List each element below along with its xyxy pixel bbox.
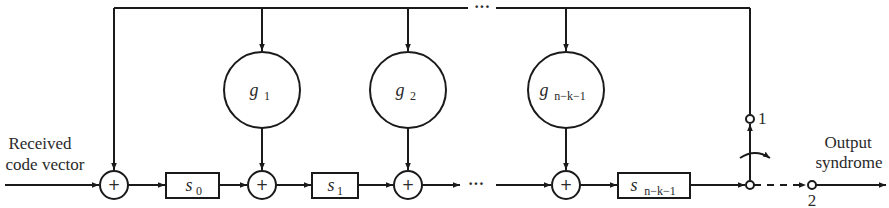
svg-text:s: s: [630, 175, 637, 195]
switch-pos-1-label: 1: [758, 109, 767, 128]
adder-0: +: [100, 171, 128, 199]
input-label-line1: Received: [8, 134, 72, 153]
svg-text:1: 1: [264, 89, 270, 103]
register-s0: s 0: [166, 173, 219, 198]
output-label-line2: syndrome: [815, 153, 882, 172]
svg-text:n−k−1: n−k−1: [554, 89, 586, 103]
svg-text:+: +: [560, 176, 573, 194]
input-label-line2: code vector: [6, 155, 85, 174]
adder-1: +: [248, 171, 276, 199]
adder-n: +: [552, 171, 580, 199]
svg-text:+: +: [108, 176, 121, 194]
svg-text:1: 1: [337, 184, 343, 198]
multiplier-g2: g 2: [370, 52, 446, 170]
svg-text:+: +: [402, 176, 415, 194]
multiplier-gn-k-1: g n−k−1: [528, 52, 604, 170]
svg-text:g: g: [396, 80, 405, 100]
adder-2: +: [394, 171, 422, 199]
svg-text:0: 0: [196, 184, 202, 198]
svg-text:s: s: [185, 175, 192, 195]
syndrome-circuit-diagram: ··· g 1 g 2 g n−k−1 Received code vector…: [0, 0, 889, 208]
svg-text:g: g: [250, 80, 259, 100]
svg-text:2: 2: [410, 89, 416, 103]
multiplier-g1: g 1: [224, 52, 300, 170]
svg-text:n−k−1: n−k−1: [644, 184, 676, 198]
svg-text:s: s: [327, 175, 334, 195]
main-ellipsis: ···: [468, 175, 484, 192]
switch-arrow-icon: [740, 153, 770, 158]
bus-ellipsis: ···: [474, 0, 490, 15]
register-sn-k-1: s n−k−1: [618, 173, 690, 198]
svg-text:g: g: [540, 80, 549, 100]
switch-pos-2-label: 2: [808, 191, 817, 208]
output-label-line1: Output: [824, 133, 872, 152]
register-s1: s 1: [312, 173, 358, 198]
svg-text:+: +: [256, 176, 269, 194]
